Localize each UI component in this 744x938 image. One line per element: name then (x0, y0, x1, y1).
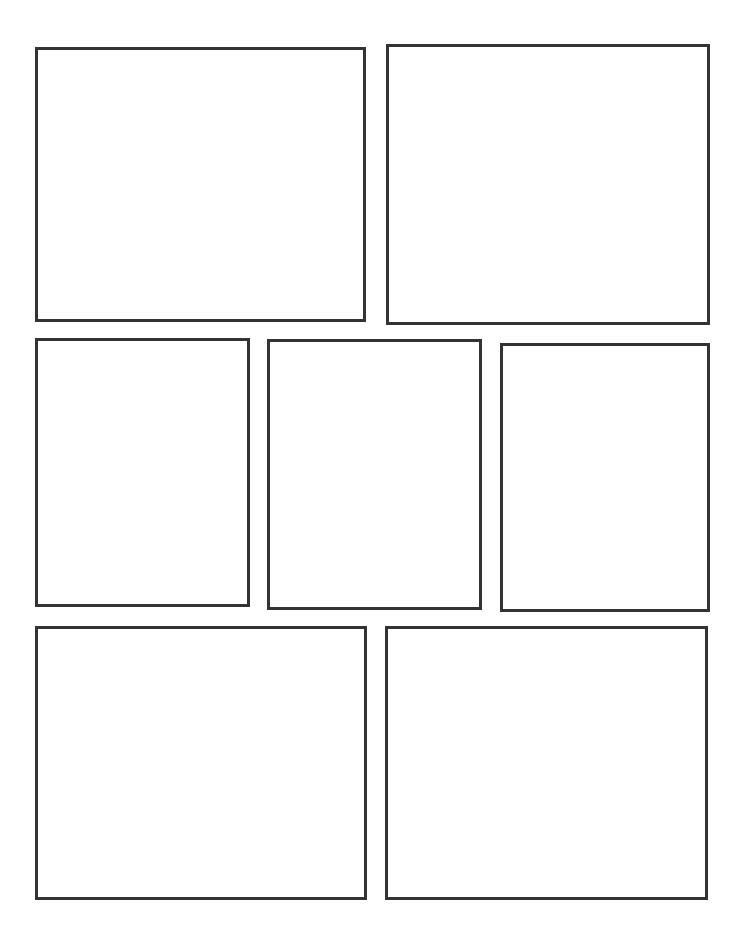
comic-panel-content (388, 629, 705, 897)
comic-panel-content (38, 50, 363, 319)
comic-panel[interactable] (386, 44, 710, 325)
comic-panel[interactable] (35, 338, 250, 607)
comic-panel-content (389, 47, 707, 322)
comic-panel-content (38, 341, 247, 604)
comic-panel[interactable] (35, 47, 366, 322)
comic-page-canvas (0, 0, 744, 938)
comic-panel-content (38, 629, 364, 897)
comic-panel[interactable] (35, 626, 367, 900)
comic-panel[interactable] (267, 339, 482, 610)
comic-panel-content (503, 346, 707, 609)
comic-panel-content (270, 342, 479, 607)
comic-panel[interactable] (500, 343, 710, 612)
comic-panel[interactable] (385, 626, 708, 900)
